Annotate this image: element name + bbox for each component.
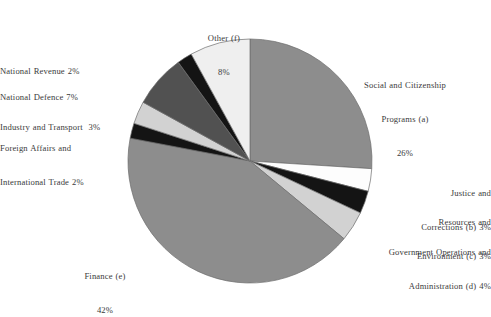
slice-label-government-line2: Administration (d) 4%: [341, 281, 491, 292]
slice-label-social-and-citizenship: Social and Citizenship Programs (a) 26%: [325, 57, 485, 182]
slice-label-other: Other (f) 8%: [159, 10, 289, 101]
slice-label-finance-value: 42%: [50, 305, 160, 316]
slice-label-foreign-affairs: Foreign Affairs and International Trade …: [0, 120, 131, 211]
slice-label-other-name: Other (f): [159, 33, 289, 44]
slice-label-foreign-affairs-line2: International Trade 2%: [0, 177, 131, 188]
slice-label-other-value: 8%: [159, 67, 289, 78]
slice-label-government-operations: Government Operations and Administration…: [341, 224, 491, 315]
slice-label-finance-name: Finance (e): [50, 271, 160, 282]
slice-label-social-line1: Social and Citizenship: [325, 80, 485, 91]
slice-label-finance: Finance (e) 42%: [50, 248, 160, 317]
slice-label-government-line1: Government Operations and: [341, 247, 491, 258]
slice-label-social-value: 26%: [325, 148, 485, 159]
slice-label-social-line2: Programs (a): [325, 114, 485, 125]
slice-label-foreign-affairs-line1: Foreign Affairs and: [0, 143, 131, 154]
